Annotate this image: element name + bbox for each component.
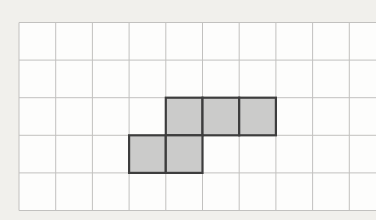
shaded-cell: [203, 98, 240, 136]
shaded-cell: [239, 98, 276, 136]
shaded-cell: [166, 135, 203, 173]
shaded-cell: [129, 135, 166, 173]
grid-paper-figure: [0, 0, 376, 220]
worksheet-figure: [0, 0, 376, 220]
shaded-cell: [166, 98, 203, 136]
